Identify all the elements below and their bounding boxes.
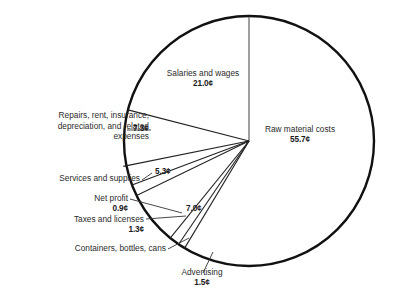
slice-label-salaries-name: Salaries and wages [148, 68, 258, 79]
slice-label-salaries-and-wages: Salaries and wages 21.0¢ [148, 68, 258, 89]
slice-label-repairs-value: 7.3¢ [133, 124, 149, 135]
slice-label-raw-material-name: Raw material costs [253, 124, 347, 135]
slice-label-net-profit-name: Net profit [40, 193, 128, 204]
slice-label-advertising-value: 1.5¢ [152, 278, 252, 289]
slice-label-net-profit-value: 0.9¢ [40, 204, 128, 215]
slice-label-raw-material-costs: Raw material costs 55.7¢ [253, 124, 347, 145]
slice-label-taxes-value: 1.3¢ [28, 225, 144, 236]
pie-chart-graphic [0, 0, 394, 302]
slice-label-taxes-name: Taxes and licenses [28, 214, 144, 225]
slice-label-containers-name: Containers, bottles, cans [30, 243, 166, 254]
slice-label-services-name: Services and supplies [20, 173, 140, 184]
slice-label-advertising-name: Advertising [152, 267, 252, 278]
slice-label-services-value: 5.3¢ [155, 167, 171, 178]
pie-chart: Salaries and wages 21.0¢ Raw material co… [0, 0, 394, 302]
slice-label-repairs-group: Repairs, rent, insurance, depreciation, … [6, 110, 149, 142]
slice-label-containers-value: 7.0¢ [186, 204, 202, 215]
slice-label-raw-material-value: 55.7¢ [253, 135, 347, 146]
slice-label-repairs-line2: depreciation, and related [6, 121, 149, 132]
slice-label-repairs-line1: Repairs, rent, insurance, [6, 110, 149, 121]
slice-label-advertising: Advertising 1.5¢ [152, 267, 252, 288]
slice-label-salaries-value: 21.0¢ [148, 79, 258, 90]
slice-label-repairs-line3: expenses [6, 131, 149, 142]
